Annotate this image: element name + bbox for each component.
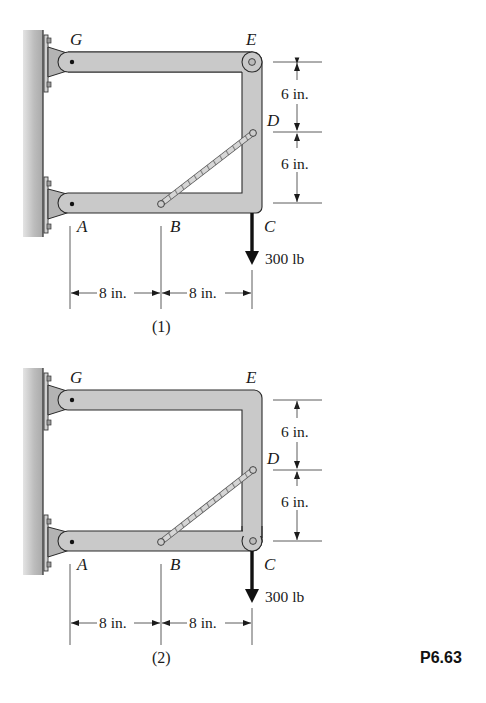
dim-bc: 8 in. bbox=[189, 284, 217, 301]
pin-e bbox=[249, 59, 256, 66]
figure-caption: (1) bbox=[152, 318, 171, 336]
pin-g bbox=[70, 398, 74, 402]
load-arrow bbox=[245, 251, 259, 265]
pin-d bbox=[250, 467, 257, 474]
problem-id: P6.63 bbox=[420, 649, 462, 666]
vertical-dimensions bbox=[273, 400, 322, 541]
label-c: C bbox=[264, 555, 276, 574]
dim-de: 6 in. bbox=[281, 85, 309, 102]
label-d: D bbox=[266, 111, 280, 130]
pin-d bbox=[250, 130, 257, 137]
pin-b bbox=[158, 539, 165, 546]
dim-cd: 6 in. bbox=[281, 155, 309, 172]
dim-cd: 6 in. bbox=[281, 493, 309, 510]
figure-1: G E D A B C 300 lb 6 in. 6 in. bbox=[23, 30, 322, 336]
label-a: A bbox=[76, 217, 88, 236]
dim-bc: 8 in. bbox=[189, 614, 217, 631]
pin-b bbox=[158, 201, 165, 208]
dim-ab: 8 in. bbox=[99, 614, 127, 631]
load-label: 300 lb bbox=[265, 588, 304, 605]
label-e: E bbox=[245, 30, 257, 49]
horizontal-dimensions bbox=[70, 564, 252, 645]
member-acd bbox=[58, 52, 262, 213]
load-arrow bbox=[245, 589, 259, 603]
pin-g bbox=[70, 60, 74, 64]
label-c: C bbox=[264, 217, 276, 236]
figure-caption: (2) bbox=[152, 649, 171, 667]
frame-diagrams: G E D A B C 300 lb 6 in. 6 in. bbox=[0, 0, 486, 703]
label-a: A bbox=[76, 555, 88, 574]
label-e: E bbox=[245, 368, 257, 387]
pin-a bbox=[70, 202, 74, 206]
horizontal-dimensions bbox=[70, 226, 252, 309]
pin-c bbox=[250, 538, 257, 545]
label-g: G bbox=[70, 368, 82, 387]
dim-de: 6 in. bbox=[281, 423, 309, 440]
pin-a bbox=[70, 540, 74, 544]
label-b: B bbox=[170, 217, 181, 236]
label-b: B bbox=[170, 555, 181, 574]
label-g: G bbox=[70, 30, 82, 49]
dim-ab: 8 in. bbox=[99, 284, 127, 301]
member-gec bbox=[58, 390, 262, 542]
label-d: D bbox=[266, 449, 280, 468]
vertical-dimensions bbox=[273, 62, 322, 203]
load-label: 300 lb bbox=[265, 250, 304, 267]
figure-2: G E D A B C 300 lb 6 in. 6 in. bbox=[23, 368, 322, 667]
